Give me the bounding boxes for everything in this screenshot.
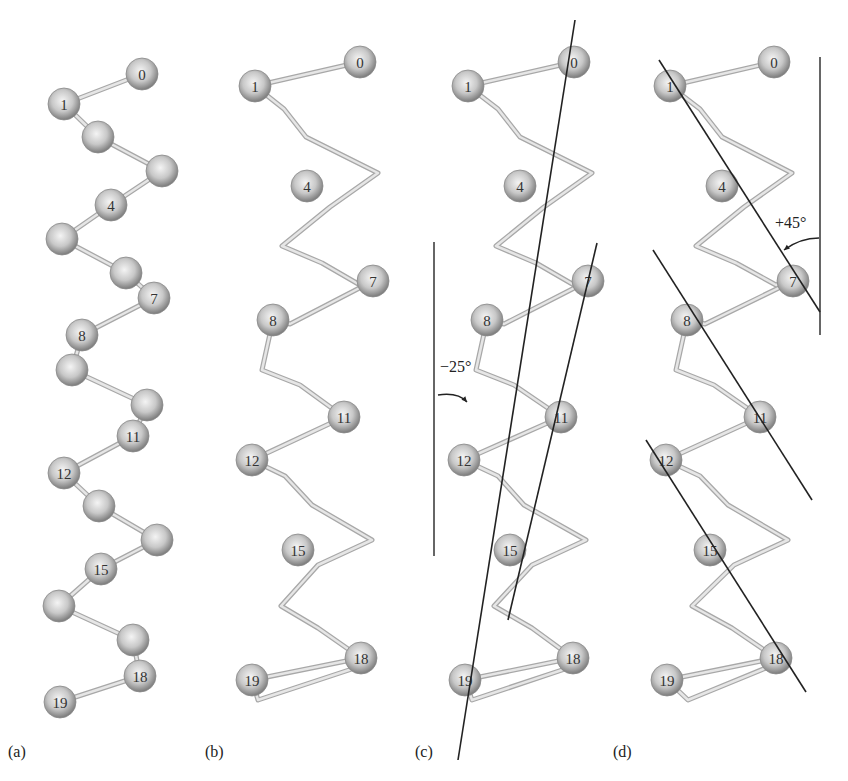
atom-label: 15 <box>291 543 306 559</box>
atom-15: 15 <box>85 553 117 585</box>
atom-4: 4 <box>291 170 323 202</box>
atom-label: 12 <box>457 453 472 469</box>
backbone-bond <box>252 62 378 700</box>
atom-label: 11 <box>126 429 140 445</box>
atom-19: 19 <box>449 664 481 696</box>
atom-sphere <box>110 257 142 289</box>
atom-sphere <box>46 223 78 255</box>
atom-label: 0 <box>138 67 146 83</box>
atom-unlabeled <box>146 155 178 187</box>
tilt-axis-line <box>646 440 806 692</box>
atom-19: 19 <box>236 664 268 696</box>
backbone-bond-outline <box>252 62 378 700</box>
atom-unlabeled <box>46 223 78 255</box>
atom-sphere <box>56 354 88 386</box>
atom-label: 15 <box>94 562 109 578</box>
atom-label: 0 <box>356 55 364 71</box>
panel-b-backbone-trace: 014781112151819(b) <box>205 46 389 761</box>
atom-1: 1 <box>452 70 484 102</box>
panel-label-a: (a) <box>8 743 26 761</box>
atom-unlabeled <box>131 389 163 421</box>
atom-label: 1 <box>464 79 472 95</box>
atom-label: 4 <box>516 179 524 195</box>
atom-label: 7 <box>150 291 158 307</box>
atom-label: 1 <box>60 97 68 113</box>
panel-label-c: (c) <box>415 743 433 761</box>
atom-label: 4 <box>303 179 311 195</box>
atom-label: 1 <box>251 79 259 95</box>
panel-c-tilt-minus-25: 014781112151819−25°(c) <box>415 20 604 761</box>
atom-11: 11 <box>545 401 577 433</box>
backbone-bond-outline <box>666 62 793 700</box>
atom-7: 7 <box>357 265 389 297</box>
panel-label-d: (d) <box>613 743 632 761</box>
atom-sphere <box>131 389 163 421</box>
atom-18: 18 <box>124 660 156 692</box>
atom-0: 0 <box>126 58 158 90</box>
atom-1: 1 <box>48 88 80 120</box>
backbone-bond <box>666 62 793 700</box>
atom-19: 19 <box>44 686 76 718</box>
atom-0: 0 <box>558 46 590 78</box>
atom-15: 15 <box>694 534 726 566</box>
atom-8: 8 <box>257 304 289 336</box>
atom-18: 18 <box>760 642 792 674</box>
atom-unlabeled <box>82 121 114 153</box>
atom-unlabeled <box>43 590 75 622</box>
atom-label: 18 <box>566 651 581 667</box>
atom-18: 18 <box>557 642 589 674</box>
atom-sphere <box>141 524 173 556</box>
atom-sphere <box>43 590 75 622</box>
panel-a-ball-and-stick: 014781112151819(a) <box>8 58 178 761</box>
atom-label: 12 <box>57 466 72 482</box>
atom-unlabeled <box>110 257 142 289</box>
atom-label: 8 <box>683 313 691 329</box>
tilt-axis-line <box>659 60 820 312</box>
atom-label: 8 <box>483 313 491 329</box>
atom-label: 12 <box>245 453 260 469</box>
arrowhead-icon <box>461 396 467 402</box>
atom-label: 15 <box>703 543 718 559</box>
panel-label-b: (b) <box>205 743 224 761</box>
atom-label: 4 <box>107 198 115 214</box>
atom-sphere <box>117 624 149 656</box>
atom-sphere <box>82 121 114 153</box>
atom-12: 12 <box>236 444 268 476</box>
atom-label: 0 <box>770 55 778 71</box>
atom-label: 8 <box>78 328 86 344</box>
atom-label: 18 <box>354 651 369 667</box>
atom-label: 19 <box>660 673 675 689</box>
atom-label: 8 <box>269 313 277 329</box>
atom-label: 7 <box>789 274 797 290</box>
atom-0: 0 <box>344 46 376 78</box>
atom-label: 19 <box>53 695 68 711</box>
atom-15: 15 <box>282 534 314 566</box>
atom-1: 1 <box>239 70 271 102</box>
atom-label: 15 <box>503 543 518 559</box>
helix-figure: 014781112151819(a) 014781112151819(b) 01… <box>0 0 848 781</box>
atom-11: 11 <box>117 420 149 452</box>
atom-label: 18 <box>133 669 148 685</box>
atom-8: 8 <box>471 304 503 336</box>
atom-label: 11 <box>337 410 351 426</box>
angle-label: +45° <box>775 214 806 231</box>
atom-unlabeled <box>117 624 149 656</box>
atom-4: 4 <box>504 170 536 202</box>
atom-4: 4 <box>95 189 127 221</box>
atom-0: 0 <box>758 46 790 78</box>
atom-sphere <box>146 155 178 187</box>
atom-12: 12 <box>48 457 80 489</box>
atom-8: 8 <box>66 319 98 351</box>
angle-label: −25° <box>440 358 471 375</box>
atom-18: 18 <box>345 642 377 674</box>
atom-11: 11 <box>328 401 360 433</box>
atom-label: 12 <box>659 453 674 469</box>
atom-19: 19 <box>651 664 683 696</box>
angle-arc-arrow <box>438 394 467 402</box>
panel-d-tilt-plus-45: 014781112151819+45°(d) <box>613 46 820 761</box>
atom-unlabeled <box>83 490 115 522</box>
atom-unlabeled <box>56 354 88 386</box>
atom-sphere <box>83 490 115 522</box>
atom-label: 7 <box>369 274 377 290</box>
atom-unlabeled <box>141 524 173 556</box>
